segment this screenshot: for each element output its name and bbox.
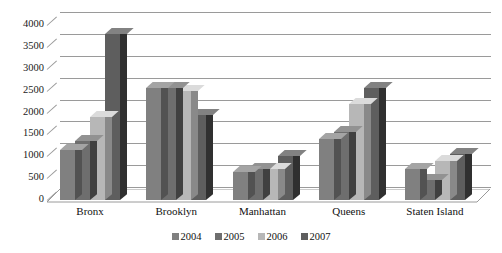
bar-side-face — [161, 83, 168, 200]
bar — [319, 139, 334, 200]
bar-side-face — [364, 98, 371, 200]
bar — [146, 88, 161, 200]
legend-label: 2004 — [181, 231, 202, 242]
bar-front-face — [319, 139, 334, 200]
y-axis-tick-label: 1000 — [4, 150, 44, 160]
legend-label: 2005 — [224, 231, 245, 242]
y-axis-tick-label: 3500 — [4, 41, 44, 51]
y-axis: 05001000150020002500300035004000 — [0, 0, 44, 253]
bar-side-face — [450, 155, 457, 200]
bar-group — [319, 21, 379, 200]
gridline-riser — [47, 170, 57, 179]
y-axis-tick-label: 1500 — [4, 128, 44, 138]
bar — [60, 150, 75, 200]
legend-swatch-icon — [258, 233, 265, 240]
chart-legend: 2004200520062007 — [0, 231, 502, 242]
legend-item: 2006 — [258, 231, 288, 242]
bar-group — [60, 21, 120, 200]
y-axis-tick-label: 2500 — [4, 85, 44, 95]
x-axis-category-label: Queens — [306, 205, 392, 217]
bar-side-face — [75, 144, 82, 200]
gridline — [60, 12, 491, 13]
legend-label: 2007 — [310, 231, 331, 242]
bar-side-face — [334, 133, 341, 200]
gridline-riser — [47, 104, 57, 113]
bar-group — [233, 21, 293, 200]
bar-side-face — [105, 111, 112, 200]
legend-swatch-icon — [301, 233, 308, 240]
legend-item: 2004 — [172, 231, 202, 242]
y-axis-tick-label: 0 — [4, 194, 44, 204]
bar-front-face — [233, 172, 248, 200]
legend-swatch-icon — [172, 233, 179, 240]
gridline-riser — [47, 82, 57, 91]
bar-side-face — [176, 83, 183, 200]
bar-group — [146, 21, 206, 200]
legend-label: 2006 — [267, 231, 288, 242]
bar-side-face — [90, 135, 97, 200]
bar-front-face — [146, 88, 161, 200]
bar — [233, 172, 248, 200]
x-axis-category-label: Manhattan — [219, 205, 305, 217]
gridline-riser — [47, 60, 57, 69]
legend-item: 2005 — [215, 231, 245, 242]
y-axis-tick-label: 4000 — [4, 19, 44, 29]
bar-front-face — [405, 169, 420, 200]
y-axis-tick-label: 2000 — [4, 107, 44, 117]
y-axis-tick-label: 3000 — [4, 63, 44, 73]
bar-side-face — [120, 28, 127, 200]
bar — [405, 169, 420, 200]
gridline-riser — [47, 191, 57, 200]
bar-side-face — [379, 83, 386, 200]
bar-side-face — [206, 109, 213, 200]
x-axis-category-label: Brooklyn — [133, 205, 219, 217]
gridline-riser — [47, 148, 57, 157]
bar-side-face — [349, 126, 356, 200]
bar-group — [405, 21, 465, 200]
gridline-riser — [47, 126, 57, 135]
x-axis-category-label: Bronx — [47, 205, 133, 217]
gridline-riser — [47, 38, 57, 47]
bar-side-face — [293, 150, 300, 200]
bar-front-face — [60, 150, 75, 200]
bar-side-face — [465, 148, 472, 200]
legend-item: 2007 — [301, 231, 331, 242]
x-axis-category-label: Staten Island — [392, 205, 478, 217]
gridline-riser — [47, 16, 57, 25]
y-axis-tick-label: 500 — [4, 172, 44, 182]
legend-swatch-icon — [215, 233, 222, 240]
bar-side-face — [191, 85, 198, 200]
bar-chart: 05001000150020002500300035004000 BronxBr… — [0, 0, 502, 253]
